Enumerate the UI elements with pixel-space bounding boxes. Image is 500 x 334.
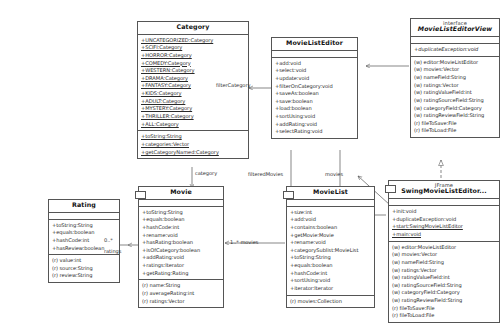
feature: +update:void [275,75,356,83]
feature: +getMovie:Movie [290,232,373,240]
feature: (w) ratings:Vector [392,267,498,275]
edge-label-category: category [195,170,217,176]
feature: +rename:void [290,239,373,247]
class-category-name: Category [140,24,246,31]
feature: (w) movies:Vector [392,251,498,259]
class-category-members: +toString:String +categories:Vector +get… [138,131,248,158]
feature: +HORROR:Category [141,52,247,60]
feature: (r) fileToSave:File [392,305,498,313]
feature: +toString:String [142,209,222,217]
feature: +MYSTERY:Category [141,105,247,113]
class-movie-operations: +toString:String +equals:boolean +hashCo… [139,207,223,281]
class-movielist[interactable]: MovieList +size:int +add:void +contains:… [286,186,375,308]
feature: (w) categoryField:Category [392,289,498,297]
feature: +ADULT:Category [141,98,247,106]
feature: +duplicateException:void [414,46,498,54]
feature: +sortUsing:void [290,277,373,285]
feature: (r) fileToLoad:File [414,127,498,135]
feature: +categories:Vector [141,141,247,149]
feature: (r) value:int [52,257,118,265]
feature: (w) editor:MovieListEditor [414,59,498,67]
feature: +isOfCategory:boolean [142,247,222,255]
feature: +sortUsing:void [275,113,356,121]
feature: +WESTERN:Category [141,67,247,75]
feature: (r) ratings:Vector [142,298,222,306]
feature: +ALL:Category [141,121,247,129]
feature: (r) fileToSave:File [414,120,498,128]
feature: (w) ratingReviewField:String [392,297,498,305]
feature: +main:void [392,231,498,239]
class-swingmovielisteditor-attributes: (w) editor:MovieListEditor (w) movies:Ve… [389,242,499,322]
feature: +equals:boolean [142,216,222,224]
class-movie-attributes: (r) name:String (r) averageRating:int (r… [139,280,223,307]
feature: +getCategoryNamed:Category [141,149,247,157]
edge-label-movies-multiplicity: 1..* movies [230,239,258,245]
feature: (w) ratingValueField:int [414,89,498,97]
feature: (r) review:String [52,272,118,280]
interface-socket-icon [135,191,146,199]
class-movielist-header: MovieList [287,187,374,200]
class-movielist-attributes: (r) movies:Collection [287,296,374,308]
feature: +hashCode:int [142,224,222,232]
feature: +UNCATEGORIZED:Category [141,37,247,45]
feature: (w) nameField:String [414,74,498,82]
edge-label-ratings-multiplicity: 0..* [104,237,113,243]
feature: (w) editor:MovieListEditor [392,244,498,252]
interface-socket-icon [283,191,294,199]
class-movielisteditorview-operations: +duplicateException:void [411,44,499,57]
class-rating-attributes: (r) value:int (r) source:String (r) revi… [49,255,119,282]
feature: (w) nameField:String [392,259,498,267]
feature: (w) ratingSourceField:String [392,282,498,290]
feature: +equals:boolean [290,262,373,270]
feature: +COMEDY:Category [141,60,247,68]
feature: (w) ratingSourceField:String [414,97,498,105]
feature: (r) source:String [52,265,118,273]
class-swingmovielisteditor-operations: +init:void +duplicateException:void +sta… [389,206,499,242]
class-movielist-empty [287,200,374,207]
feature: +add:void [290,216,373,224]
feature: (r) name:String [142,282,222,290]
class-movie[interactable]: Movie +toString:String +equals:boolean +… [138,186,224,308]
feature: +toString:String [290,254,373,262]
edge-label-filtercategory: filterCategory [216,82,250,88]
feature: (w) ratings:Vector [414,82,498,90]
class-movielisteditor[interactable]: MovieListEditor +add:void +select:void +… [271,37,358,139]
class-rating-header: Rating [49,200,119,213]
feature: +load:boolean [275,105,356,113]
feature: +add:void [275,60,356,68]
feature: +filterOnCategory:void [275,83,356,91]
feature: +KIDS:Category [141,90,247,98]
feature: +start:SwingMovieListEditor [392,223,498,231]
class-rating-name: Rating [51,202,117,209]
class-movielisteditor-attributes [272,51,357,58]
feature: +equals:boolean [52,229,118,237]
class-movielisteditorview-header: interface MovieListEditorView [411,19,499,37]
feature: (w) categoryField:Category [414,105,498,113]
feature: +select:void [275,67,356,75]
diagram-canvas: Category +UNCATEGORIZED:Category +SCIFI:… [0,0,500,334]
feature: +toString:String [141,133,247,141]
feature: +hashCode:int [290,270,373,278]
feature: +selectRating:void [275,128,356,136]
class-movie-header: Movie [139,187,223,200]
class-category[interactable]: Category +UNCATEGORIZED:Category +SCIFI:… [137,21,249,159]
edge-label-movies: movies [325,171,343,177]
class-movie-empty [139,200,223,207]
feature: +iterator:Iterator [290,285,373,293]
feature: +save:boolean [275,98,356,106]
feature: +SCIFI:Category [141,44,247,52]
edge-label-filteredmovies: filteredMovies [248,171,283,177]
feature: +size:int [290,209,373,217]
feature: +addRating:void [142,254,222,262]
feature: (w) movies:Vector [414,66,498,74]
class-rating-empty [49,213,119,220]
class-swingmovielisteditor[interactable]: JFrame SwingMovieListEditor... +init:voi… [388,180,500,323]
class-movielisteditorview[interactable]: interface MovieListEditorView +duplicate… [410,18,500,138]
feature: +ratings:Iterator [142,262,222,270]
feature: +rename:void [142,232,222,240]
class-movielist-name: MovieList [289,189,372,196]
feature: (w) ratingReviewField:String [414,112,498,120]
class-swingmovielisteditor-name: SwingMovieListEditor... [391,188,497,195]
class-movielisteditor-operations: +add:void +select:void +update:void +fil… [272,58,357,138]
class-movielisteditorview-name: MovieListEditorView [413,26,497,33]
